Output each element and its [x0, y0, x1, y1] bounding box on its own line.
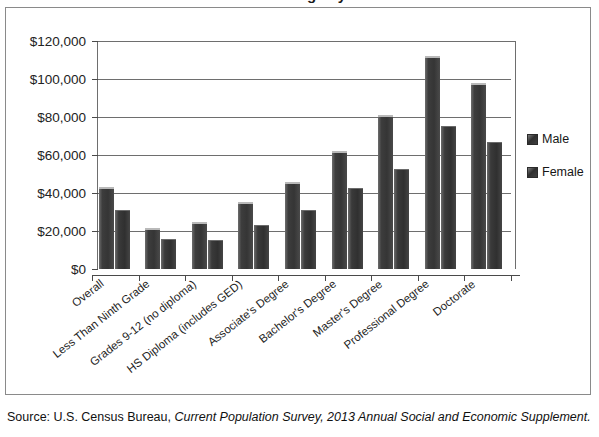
bar-male — [99, 187, 114, 269]
cropped-chart-title: Median Annual Earnings by Educational At… — [0, 0, 599, 7]
source-caption: Source: U.S. Census Bureau, Current Popu… — [7, 410, 591, 424]
y-axis-tick-label: $60,000 — [12, 148, 86, 163]
chart-title-text: Median Annual Earnings by Educational At… — [150, 0, 517, 3]
legend: MaleFemale — [527, 132, 599, 198]
y-axis-tick-label: $120,000 — [12, 34, 86, 49]
legend-swatch-icon — [527, 167, 538, 178]
y-axis-tick — [92, 269, 98, 270]
x-axis-category-label: Associate's Degree — [206, 278, 291, 348]
source-prefix: Source: U.S. Census Bureau, — [7, 410, 174, 424]
bar-female — [161, 239, 176, 269]
y-axis-tick-label: $0 — [12, 262, 86, 277]
bar-male — [425, 56, 440, 269]
bar-male — [192, 222, 207, 270]
legend-label: Male — [542, 132, 569, 146]
y-axis-tick — [92, 79, 98, 80]
y-axis-tick-label: $40,000 — [12, 186, 86, 201]
legend-item-male[interactable]: Male — [527, 132, 599, 146]
bar-female — [115, 210, 130, 269]
bar-female — [254, 225, 269, 269]
bar-male — [378, 115, 393, 269]
y-axis-tick — [92, 117, 98, 118]
y-axis-tick-label: $100,000 — [12, 72, 86, 87]
y-axis-labels: $0$20,000$40,000$60,000$80,000$100,000$1… — [8, 8, 86, 308]
y-axis-tick — [92, 155, 98, 156]
y-axis-tick-label: $20,000 — [12, 224, 86, 239]
x-axis-category-label: Doctorate — [431, 278, 478, 318]
bar-male — [471, 83, 486, 269]
gridline — [92, 117, 511, 118]
bar-female — [394, 169, 409, 269]
bar-male — [332, 151, 347, 269]
bar-male — [238, 202, 253, 269]
bar-female — [441, 126, 456, 269]
bar-female — [301, 210, 316, 269]
legend-swatch-icon — [527, 134, 538, 145]
gridline — [92, 79, 511, 80]
y-axis-tick — [92, 41, 98, 42]
y-axis-tick-label: $80,000 — [12, 110, 86, 125]
bar-female — [208, 240, 223, 269]
gridline — [92, 41, 511, 42]
chart-frame: $0$20,000$40,000$60,000$80,000$100,000$1… — [5, 7, 591, 395]
y-axis-tick — [92, 193, 98, 194]
x-axis-line — [92, 275, 520, 276]
bar-female — [348, 188, 363, 269]
x-axis-category-label: Professional Degree — [342, 277, 432, 351]
y-axis-tick — [92, 231, 98, 232]
legend-label: Female — [542, 165, 584, 179]
bar-female — [487, 142, 502, 269]
legend-item-female[interactable]: Female — [527, 165, 599, 179]
source-italic: Current Population Survey, 2013 Annual S… — [174, 410, 590, 424]
bar-male — [285, 182, 300, 269]
bar-male — [145, 228, 160, 269]
